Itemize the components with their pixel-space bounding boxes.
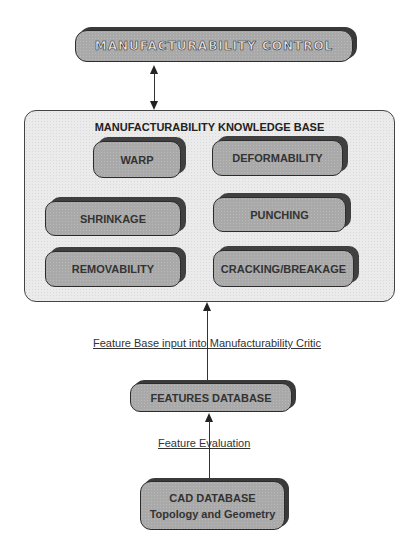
features-database-label: FEATURES DATABASE [151, 392, 272, 404]
manufacturability-control-box: MANUFACTURABILITY CONTROL [75, 30, 353, 62]
edge-label-feature-evaluation: Feature Evaluation [158, 437, 250, 449]
module-removability: REMOVABILITY [45, 251, 181, 287]
module-label: SHRINKAGE [80, 213, 146, 225]
knowledge-base-title: MANUFACTURABILITY KNOWLEDGE BASE [25, 121, 394, 133]
module-label: DEFORMABILITY [232, 152, 322, 164]
module-label: PUNCHING [250, 209, 309, 221]
module-shrinkage: SHRINKAGE [45, 201, 181, 236]
module-cracking-breakage: CRACKING/BREAKAGE [213, 250, 354, 287]
features-database-box: FEATURES DATABASE [130, 383, 292, 412]
cad-database-text: CAD DATABASE Topology and Geometry [150, 490, 276, 522]
module-label: WARP [121, 154, 154, 166]
module-label: REMOVABILITY [72, 263, 154, 275]
control-kb-connector [154, 72, 156, 102]
manufacturability-control-label: MANUFACTURABILITY CONTROL [95, 39, 334, 53]
edge-label-feature-base-input: Feature Base input into Manufacturabilit… [93, 337, 321, 349]
module-label: CRACKING/BREAKAGE [221, 263, 346, 275]
arrow-down-head [150, 101, 158, 110]
module-punching: PUNCHING [213, 197, 346, 232]
module-deformability: DEFORMABILITY [212, 140, 343, 176]
module-warp: WARP [93, 141, 181, 178]
cad-database-box: CAD DATABASE Topology and Geometry [140, 481, 285, 530]
cad-features-connector [209, 421, 211, 479]
cad-database-subtitle: Topology and Geometry [150, 506, 276, 522]
cad-database-title: CAD DATABASE [150, 490, 276, 506]
